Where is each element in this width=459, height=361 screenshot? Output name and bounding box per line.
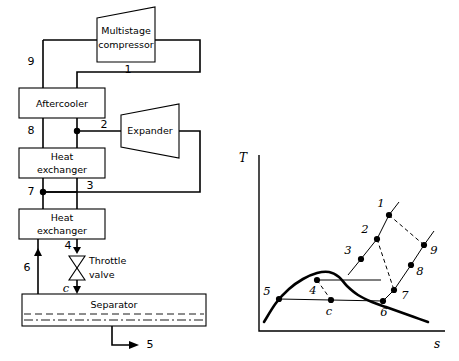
figure-root: Multistage compressor Aftercooler Heat e… bbox=[0, 0, 459, 361]
multistage-compressor-label-line1: Multistage bbox=[101, 25, 151, 36]
expander-label: Expander bbox=[127, 125, 172, 136]
separator-label: Separator bbox=[91, 299, 138, 310]
throttle-valve-symbol bbox=[69, 256, 85, 280]
state-label-7: 7 bbox=[401, 288, 409, 302]
axis-label-entropy: s bbox=[434, 337, 440, 351]
stream-label-4: 4 bbox=[65, 239, 72, 252]
stream-label-2: 2 bbox=[101, 118, 108, 131]
state-label-3: 3 bbox=[344, 243, 351, 257]
heat-exchanger-upper-label-line1: Heat bbox=[51, 151, 74, 162]
stream-label-5: 5 bbox=[147, 338, 154, 351]
separator[interactable]: Separator bbox=[22, 294, 206, 326]
multistage-compressor-label-line2: compressor bbox=[98, 39, 154, 50]
stream-label-c: c bbox=[63, 281, 70, 295]
throttle-valve-label-line2: valve bbox=[89, 269, 115, 280]
stream-label-8: 8 bbox=[28, 124, 35, 137]
heat-exchanger-upper-label-line2: exchanger bbox=[37, 164, 87, 175]
arrow-stream-5 bbox=[129, 341, 139, 349]
state-label-1: 1 bbox=[377, 196, 384, 210]
state-label-c: c bbox=[326, 304, 333, 318]
separation-4-to-c bbox=[317, 280, 331, 300]
temperature-entropy-diagram: T s 123456789c bbox=[239, 151, 445, 351]
ts-process-paths-solid bbox=[279, 202, 434, 301]
ts-axes bbox=[259, 155, 445, 331]
state-label-6: 6 bbox=[380, 305, 387, 319]
heat-exchanger-lower-label-line1: Heat bbox=[51, 212, 74, 223]
heat-exchanger-lower-label-line2: exchanger bbox=[37, 225, 87, 236]
stream-label-7: 7 bbox=[28, 185, 35, 198]
state-point-9 bbox=[421, 242, 427, 248]
aftercooler[interactable]: Aftercooler bbox=[19, 88, 105, 118]
junction-node-2 bbox=[74, 128, 80, 134]
process-flow-diagram: Multistage compressor Aftercooler Heat e… bbox=[19, 7, 206, 351]
state-point-8 bbox=[408, 262, 414, 268]
state-point-2 bbox=[374, 236, 380, 242]
stream-label-1: 1 bbox=[125, 63, 132, 76]
heat-exchanger-upper[interactable]: Heat exchanger bbox=[19, 148, 105, 178]
state-label-4: 4 bbox=[308, 283, 316, 297]
throttle-valve-label-line1: Throttle bbox=[88, 255, 126, 266]
state-label-2: 2 bbox=[360, 222, 368, 236]
state-point-5 bbox=[276, 296, 282, 302]
aftercooler-label: Aftercooler bbox=[36, 98, 88, 109]
expander[interactable]: Expander bbox=[121, 104, 179, 158]
multistage-compressor[interactable]: Multistage compressor bbox=[97, 7, 155, 62]
expansion-2-to-7 bbox=[377, 239, 394, 290]
heat-exchanger-lower[interactable]: Heat exchanger bbox=[19, 209, 105, 239]
stream-label-9: 9 bbox=[28, 55, 35, 68]
state-point-c bbox=[328, 297, 334, 303]
state-label-5: 5 bbox=[263, 284, 270, 298]
stream-label-3: 3 bbox=[87, 179, 94, 192]
compression-line-3-2-1 bbox=[348, 202, 399, 275]
state-label-9: 9 bbox=[430, 243, 437, 257]
state-point-1 bbox=[386, 212, 392, 218]
state-label-8: 8 bbox=[416, 264, 423, 278]
state-point-3 bbox=[358, 256, 364, 262]
expansion-1-to-9 bbox=[389, 215, 424, 245]
arrow-stream-4 bbox=[73, 247, 81, 254]
state-point-7 bbox=[391, 287, 397, 293]
figure-canvas: Multistage compressor Aftercooler Heat e… bbox=[0, 0, 459, 361]
axis-label-temperature: T bbox=[239, 151, 248, 165]
stream-label-6: 6 bbox=[24, 261, 31, 274]
state-point-6 bbox=[380, 298, 386, 304]
arrow-stream-c bbox=[73, 286, 81, 294]
